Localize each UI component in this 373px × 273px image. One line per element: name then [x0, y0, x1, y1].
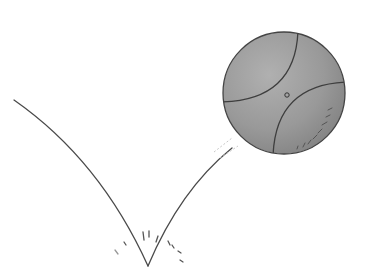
motion-streaks — [214, 138, 238, 158]
bouncing-ball-scene — [0, 0, 373, 273]
ball — [222, 30, 346, 157]
trajectory-line — [14, 100, 232, 266]
impact-marks — [115, 231, 183, 262]
